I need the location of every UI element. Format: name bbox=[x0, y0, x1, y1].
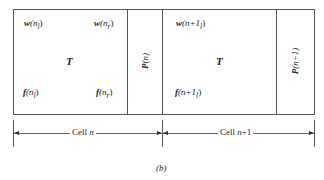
arg: (n bbox=[26, 87, 34, 97]
arg: (n bbox=[30, 18, 38, 28]
arg: (n+1) bbox=[290, 48, 300, 69]
paren: ) bbox=[36, 87, 39, 97]
cell-suffix: +1 bbox=[242, 127, 252, 137]
divider-cell-boundary bbox=[162, 9, 163, 115]
arrow-right-icon bbox=[157, 131, 162, 135]
paren: ) bbox=[40, 18, 43, 28]
arrow-left-icon bbox=[163, 131, 168, 135]
label-w-nr: w(nr) bbox=[94, 18, 113, 31]
label-f-nl: f(nl) bbox=[23, 87, 39, 100]
symbol: P bbox=[140, 64, 150, 70]
label-P-n: P(n) bbox=[140, 46, 150, 76]
divider-T-P-n bbox=[127, 9, 128, 115]
label-f-n1l: f(n+1l) bbox=[175, 87, 201, 100]
cell-text: Cell bbox=[220, 127, 237, 137]
paren: ) bbox=[198, 87, 201, 97]
label-w-nl: w(nl) bbox=[24, 18, 43, 31]
divider-T-P-n1 bbox=[276, 9, 277, 115]
arg: (n bbox=[100, 18, 108, 28]
tick-right bbox=[314, 120, 315, 147]
arrow-left-icon bbox=[14, 131, 19, 135]
arrow-right-icon bbox=[309, 131, 314, 135]
label-f-nr: f(nr) bbox=[96, 87, 112, 100]
box-left-border bbox=[13, 9, 14, 115]
dimension-label-cell-n1: Cell n+1 bbox=[218, 127, 253, 137]
paren: ) bbox=[110, 18, 113, 28]
box-right-border bbox=[314, 9, 315, 115]
label-P-n1: P(n+1) bbox=[290, 39, 300, 83]
arg: (n+1 bbox=[178, 87, 196, 97]
symbol: P bbox=[290, 69, 300, 75]
box-bottom-border bbox=[13, 114, 315, 115]
paren: ) bbox=[202, 18, 205, 28]
arg: (n bbox=[99, 87, 107, 97]
label-T-cell-n1: T bbox=[216, 55, 223, 67]
paren: ) bbox=[109, 87, 112, 97]
cell-var: n bbox=[89, 127, 94, 137]
dimension-label-cell-n: Cell n bbox=[70, 127, 96, 137]
cell-text: Cell bbox=[72, 127, 89, 137]
label-T-cell-n: T bbox=[66, 55, 73, 67]
figure-caption: (b) bbox=[156, 163, 167, 173]
box-top-border bbox=[13, 9, 315, 10]
arg: (n+1 bbox=[182, 18, 200, 28]
arg: (n) bbox=[140, 53, 150, 64]
label-w-n1l: w(n+1l) bbox=[176, 18, 205, 31]
